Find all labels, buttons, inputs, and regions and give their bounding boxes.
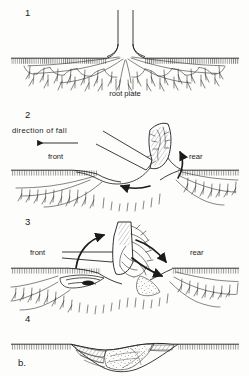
root-plate-label: root plate — [109, 89, 141, 98]
front-label-2: front — [48, 152, 64, 161]
panel-3-number: 3 — [25, 216, 30, 227]
panel-2-number: 2 — [25, 109, 30, 120]
uprooting-sequence-svg: 1 root plate — [0, 0, 249, 376]
front-label-3: front — [30, 248, 46, 257]
figure-caption-label: b. — [18, 357, 26, 368]
rear-label-3: rear — [190, 248, 204, 257]
rear-label-2: rear — [189, 152, 203, 161]
panel-1-number: 1 — [25, 7, 30, 18]
direction-of-fall-label: direction of fall — [12, 126, 67, 135]
panel-4-number: 4 — [25, 313, 30, 324]
figure-root-plate-uprooting: 1 root plate — [0, 0, 249, 376]
